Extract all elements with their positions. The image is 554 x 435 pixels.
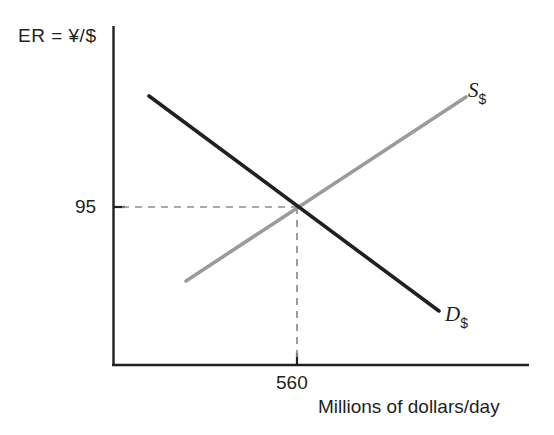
supply-curve <box>186 97 466 281</box>
y-axis-tick-label-95: 95 <box>75 196 96 218</box>
x-axis-label: Millions of dollars/day <box>318 396 500 418</box>
supply-curve-label-main: S <box>468 78 479 102</box>
demand-curve-label-main: D <box>445 302 460 326</box>
supply-curve-label: S$ <box>468 78 486 105</box>
demand-curve-label-subscript: $ <box>460 315 468 331</box>
demand-curve-label: D$ <box>445 302 468 329</box>
x-axis-tick-label-560: 560 <box>276 372 308 394</box>
exchange-rate-supply-demand-figure: ER = ¥/$ 95 560 Millions of dollars/day … <box>0 0 554 435</box>
supply-curve-label-subscript: $ <box>479 91 487 107</box>
y-axis-label: ER = ¥/$ <box>18 25 96 47</box>
